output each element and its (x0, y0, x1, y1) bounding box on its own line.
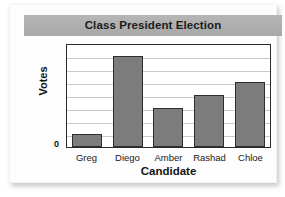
bar-rashad (194, 95, 224, 147)
y-axis-title: Votes (37, 59, 49, 103)
y-axis-zero-tick: 0 (54, 139, 59, 149)
bar-greg (72, 134, 102, 147)
x-tick-chloe: Chloe (231, 152, 271, 163)
chart-card: Class President Election Votes 0 GregDie… (9, 4, 277, 183)
bar-amber (153, 108, 183, 147)
x-axis-title: Candidate (66, 165, 271, 177)
x-tick-greg: Greg (67, 152, 107, 163)
bar-chloe (235, 82, 265, 147)
plot-area (66, 44, 271, 148)
x-tick-diego: Diego (108, 152, 148, 163)
chart-title-band: Class President Election (24, 15, 282, 36)
x-axis-tick-labels: GregDiegoAmberRashadChloe (66, 150, 271, 164)
bar-diego (113, 56, 143, 147)
x-tick-amber: Amber (149, 152, 189, 163)
x-tick-rashad: Rashad (190, 152, 230, 163)
bar-series (67, 45, 270, 147)
chart-screenshot: Class President Election Votes 0 GregDie… (0, 0, 285, 197)
chart-title: Class President Election (24, 15, 282, 36)
